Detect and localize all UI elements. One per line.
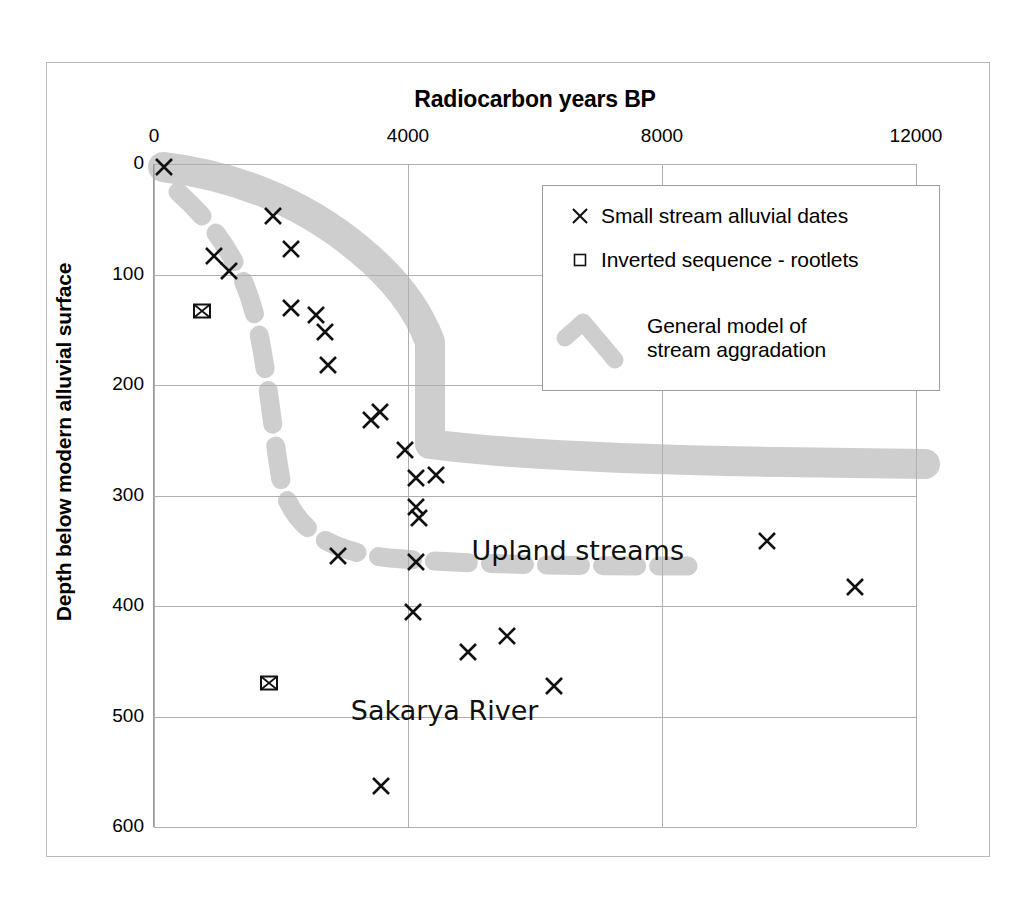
legend-label-inverted-sequence: Inverted sequence - rootlets	[601, 248, 859, 272]
legend: Small stream alluvial dates Inverted seq…	[542, 185, 940, 391]
data-point-x-marker	[278, 295, 304, 321]
data-point-boxed-x-marker	[259, 673, 279, 693]
y-tick-label: 400	[88, 594, 144, 616]
data-point-x-marker	[325, 543, 351, 569]
data-point-x-marker	[406, 505, 432, 531]
x-tick-label: 4000	[348, 125, 468, 147]
gridline-horizontal	[154, 496, 916, 497]
data-point-x-marker	[216, 258, 242, 284]
data-point-x-marker	[312, 319, 338, 345]
annotation-sakarya-river: Sakarya River	[351, 695, 539, 726]
y-tick-label: 100	[88, 263, 144, 285]
figure-root: Radiocarbon years BP Depth below modern …	[0, 0, 1027, 913]
data-point-boxed-x-marker	[192, 301, 212, 321]
y-axis-title: Depth below modern alluvial surface	[52, 182, 76, 702]
data-point-x-marker	[541, 673, 567, 699]
data-point-x-marker	[754, 528, 780, 554]
legend-label-small-stream: Small stream alluvial dates	[601, 204, 848, 228]
legend-item-general-model: General model of stream aggradation	[553, 298, 826, 378]
gridline-horizontal	[154, 827, 916, 828]
data-point-x-marker	[368, 773, 394, 799]
y-tick-label: 200	[88, 373, 144, 395]
x-tick-label: 0	[94, 125, 214, 147]
annotation-upland-streams: Upland streams	[472, 535, 684, 566]
data-point-x-marker	[260, 203, 286, 229]
legend-label-general-model-line1: General model of	[647, 314, 826, 338]
data-point-x-marker	[392, 437, 418, 463]
legend-item-small-stream: Small stream alluvial dates	[559, 204, 848, 228]
gridline-horizontal	[154, 164, 916, 165]
data-point-x-marker	[455, 639, 481, 665]
data-point-x-marker	[400, 599, 426, 625]
y-tick-label: 300	[88, 484, 144, 506]
gridline-vertical	[154, 164, 155, 827]
square-marker-icon	[559, 250, 601, 270]
data-point-x-marker	[278, 236, 304, 262]
data-point-x-marker	[367, 399, 393, 425]
data-point-x-marker	[494, 623, 520, 649]
chart-title: Radiocarbon years BP	[154, 86, 916, 113]
legend-label-general-model-line2: stream aggradation	[647, 338, 826, 362]
x-marker-icon	[559, 205, 601, 227]
x-tick-label: 8000	[602, 125, 722, 147]
data-point-x-marker	[423, 462, 449, 488]
data-point-x-marker	[842, 574, 868, 600]
gray-band-swatch-icon	[553, 298, 641, 378]
gridline-horizontal	[154, 606, 916, 607]
y-tick-label: 500	[88, 705, 144, 727]
legend-item-inverted-sequence: Inverted sequence - rootlets	[559, 248, 859, 272]
x-tick-label: 12000	[856, 125, 976, 147]
data-point-x-marker	[403, 549, 429, 575]
y-tick-label: 0	[88, 152, 144, 174]
y-tick-label: 600	[88, 815, 144, 837]
data-point-x-marker	[151, 154, 177, 180]
data-point-x-marker	[315, 352, 341, 378]
